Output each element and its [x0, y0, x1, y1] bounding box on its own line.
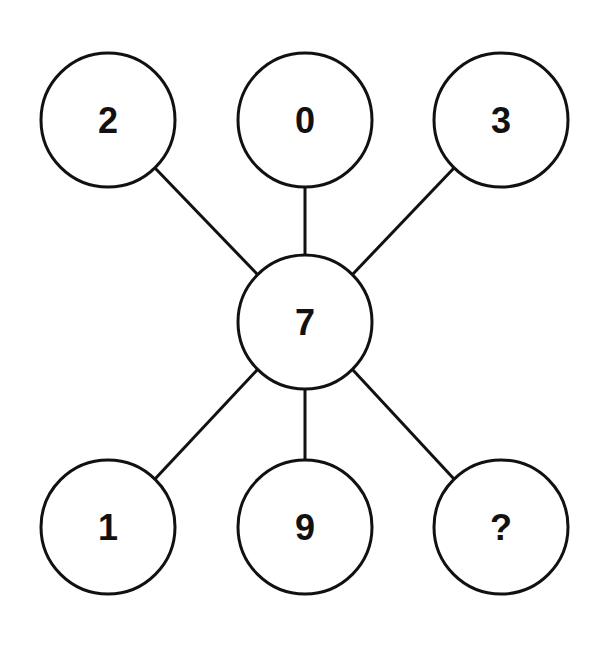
label-bottom-center: 9	[295, 507, 315, 548]
label-center: 7	[295, 302, 315, 343]
label-bottom-right: ?	[490, 507, 512, 548]
connector-top-left	[155, 168, 258, 275]
label-top-right: 3	[491, 100, 511, 141]
connector-top-right	[352, 168, 454, 275]
connector-bottom-left	[155, 369, 258, 479]
label-top-center: 0	[295, 100, 315, 141]
puzzle-diagram: 2 0 3 7 1 9 ?	[0, 0, 600, 649]
label-top-left: 2	[98, 100, 118, 141]
label-bottom-left: 1	[98, 507, 118, 548]
connector-bottom-right	[352, 369, 454, 479]
